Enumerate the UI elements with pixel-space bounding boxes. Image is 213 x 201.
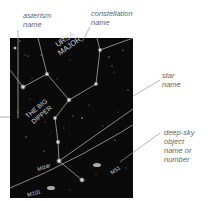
m101-galaxy-icon <box>47 186 55 190</box>
mizar-star <box>56 158 62 164</box>
star-map <box>0 0 213 201</box>
m51-galaxy-icon <box>93 163 101 167</box>
